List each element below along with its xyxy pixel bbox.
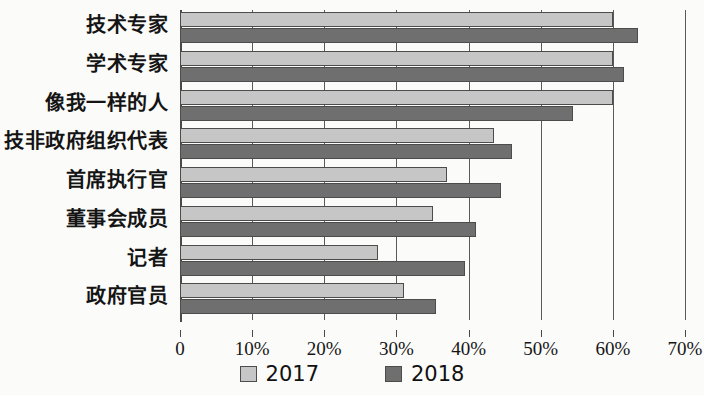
x-axis-tick	[613, 330, 614, 337]
legend-label-2017: 2017	[266, 362, 319, 386]
bar-2018-5	[180, 222, 476, 237]
x-axis-tick-label: 60%	[583, 338, 643, 360]
category-label-0: 技术专家	[86, 9, 168, 38]
x-axis-tick	[685, 330, 686, 337]
category-label-5: 董事会成员	[66, 202, 169, 231]
bar-2018-6	[180, 261, 465, 276]
category-label-4: 首席执行官	[66, 164, 169, 193]
x-axis-tick-label: 30%	[366, 338, 426, 360]
x-axis-tick-label: 40%	[439, 338, 499, 360]
x-axis-tick	[396, 330, 397, 337]
bar-2018-7	[180, 299, 436, 314]
bar-2017-0	[180, 12, 613, 27]
x-axis-tick	[541, 330, 542, 337]
bar-2017-1	[180, 51, 613, 66]
legend-item-2017: 2017	[240, 362, 319, 386]
x-axis-tick-label: 70%	[655, 338, 704, 360]
bar-chart: 技术专家学术专家像我一样的人技非政府组织代表首席执行官董事会成员记者政府官员 0…	[0, 0, 704, 395]
category-label-7: 政府官员	[86, 280, 168, 309]
category-label-3: 技非政府组织代表	[4, 125, 168, 154]
category-label-6: 记者	[127, 241, 168, 270]
bar-2017-6	[180, 245, 378, 260]
bar-2018-2	[180, 106, 573, 121]
x-axis-tick-label: 0	[150, 338, 210, 360]
bar-2018-3	[180, 144, 512, 159]
plot-area: 010%20%30%40%50%60%70%	[180, 10, 685, 320]
legend-item-2018: 2018	[385, 362, 464, 386]
gridline	[685, 10, 686, 320]
x-axis-tick	[252, 330, 253, 337]
bar-2017-3	[180, 128, 494, 143]
legend-label-2018: 2018	[411, 362, 464, 386]
bar-2017-7	[180, 283, 404, 298]
dark-gray-swatch-icon	[385, 366, 402, 382]
category-label-1: 学术专家	[86, 47, 168, 76]
chart-legend: 2017 2018	[0, 362, 704, 386]
x-axis-tick-label: 50%	[511, 338, 571, 360]
light-gray-swatch-icon	[240, 366, 257, 382]
bar-2018-0	[180, 28, 638, 43]
bar-2017-4	[180, 167, 447, 182]
gridline	[613, 10, 614, 320]
bar-2017-5	[180, 206, 433, 221]
x-axis-tick	[324, 330, 325, 337]
bar-2018-4	[180, 183, 501, 198]
x-axis-tick	[469, 330, 470, 337]
category-label-2: 像我一样的人	[45, 86, 168, 115]
bar-2017-2	[180, 90, 613, 105]
x-axis-tick	[180, 330, 181, 337]
x-axis-tick-label: 20%	[294, 338, 354, 360]
category-axis-labels: 技术专家学术专家像我一样的人技非政府组织代表首席执行官董事会成员记者政府官员	[0, 0, 174, 330]
x-axis-tick-label: 10%	[222, 338, 282, 360]
bar-2018-1	[180, 67, 624, 82]
